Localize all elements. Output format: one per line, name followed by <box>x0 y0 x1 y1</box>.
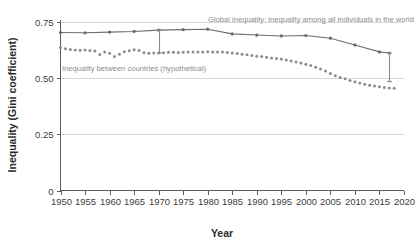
data-point <box>373 85 376 88</box>
gridlines <box>61 23 405 135</box>
x-tick-label: 2020 <box>394 196 415 207</box>
x-tick-label: 2010 <box>345 196 366 207</box>
data-point <box>295 60 298 63</box>
data-point <box>191 50 194 53</box>
x-tick-label: 1975 <box>173 196 194 207</box>
x-tick-label: 1990 <box>247 196 268 207</box>
series-global-inequality <box>59 28 391 55</box>
data-point <box>245 53 248 56</box>
data-point <box>103 51 106 54</box>
data-point <box>353 80 356 83</box>
data-point <box>187 51 190 54</box>
data-point <box>182 51 185 54</box>
data-point <box>250 54 253 57</box>
data-point <box>309 64 312 67</box>
y-axis <box>57 20 61 192</box>
chart-canvas: 00.250.500.75 19501955196019651970197519… <box>0 0 415 248</box>
data-point <box>152 52 155 55</box>
data-point <box>79 49 82 52</box>
x-tick-label: 1980 <box>198 196 219 207</box>
y-tick-label: 0.75 <box>35 17 54 28</box>
data-point <box>123 50 126 53</box>
data-point <box>353 43 356 46</box>
data-point <box>378 50 381 53</box>
data-point <box>177 51 180 54</box>
data-point <box>255 55 258 58</box>
data-point <box>290 60 293 63</box>
data-point <box>221 51 224 54</box>
data-point <box>182 28 185 31</box>
data-point <box>314 66 317 69</box>
data-point <box>167 51 170 54</box>
data-point <box>270 56 273 59</box>
y-tick-labels: 00.250.500.75 <box>35 17 54 197</box>
data-point <box>280 58 283 61</box>
data-point <box>344 77 347 80</box>
data-point <box>226 51 229 54</box>
data-point <box>113 55 116 58</box>
data-point <box>108 52 111 55</box>
data-point <box>285 58 288 61</box>
data-point <box>304 34 307 37</box>
data-point <box>59 31 62 34</box>
data-point <box>133 48 136 51</box>
data-point <box>118 53 121 56</box>
data-point <box>329 72 332 75</box>
data-point <box>216 50 219 53</box>
data-point <box>368 84 371 87</box>
data-point <box>236 52 239 55</box>
x-tick-label: 1965 <box>124 196 145 207</box>
data-point <box>64 47 67 50</box>
data-point <box>231 52 234 55</box>
data-point <box>299 62 302 65</box>
x-axis <box>61 191 405 195</box>
data-point <box>324 69 327 72</box>
x-tick-label: 2005 <box>320 196 341 207</box>
data-point <box>388 87 391 90</box>
data-point <box>201 50 204 53</box>
data-point <box>339 76 342 79</box>
x-tick-label: 1955 <box>75 196 96 207</box>
x-tick-labels: 1950195519601965197019751980198519901995… <box>51 196 415 207</box>
inequality-line-chart: 00.250.500.75 19501955196019651970197519… <box>0 0 415 248</box>
data-point <box>393 87 396 90</box>
data-point <box>74 49 77 52</box>
data-point <box>133 30 136 33</box>
data-point <box>280 34 283 37</box>
data-point <box>59 46 62 49</box>
x-axis-title: Year <box>211 227 233 239</box>
data-point <box>241 53 244 56</box>
y-tick-label: 0.25 <box>35 129 54 140</box>
data-point <box>319 67 322 70</box>
between-countries-label: Inequality between countries (hypothetic… <box>62 64 206 73</box>
data-point <box>172 51 175 54</box>
data-point <box>128 49 131 52</box>
data-point <box>108 31 111 34</box>
data-point <box>329 37 332 40</box>
data-point <box>138 49 141 52</box>
data-point <box>93 49 96 52</box>
gap-connectors <box>157 30 392 81</box>
data-point <box>142 51 145 54</box>
x-tick-label: 1960 <box>100 196 121 207</box>
data-point <box>196 51 199 54</box>
x-tick-label: 1970 <box>149 196 170 207</box>
x-tick-label: 1950 <box>51 196 72 207</box>
data-point <box>83 31 86 34</box>
data-point <box>206 28 209 31</box>
data-point <box>265 56 268 59</box>
data-point <box>206 50 209 53</box>
data-point <box>88 49 91 52</box>
data-point <box>378 85 381 88</box>
data-point <box>363 83 366 86</box>
data-point <box>260 55 263 58</box>
series-annotations: Global inequality: inequality among all … <box>62 15 414 73</box>
data-point <box>84 49 87 52</box>
x-tick-label: 1985 <box>222 196 243 207</box>
x-tick-label: 2000 <box>296 196 317 207</box>
data-point <box>383 86 386 89</box>
data-point <box>231 32 234 35</box>
x-tick-label: 2015 <box>369 196 390 207</box>
global-inequality-label: Global inequality: inequality among all … <box>208 15 414 24</box>
data-point <box>358 82 361 85</box>
